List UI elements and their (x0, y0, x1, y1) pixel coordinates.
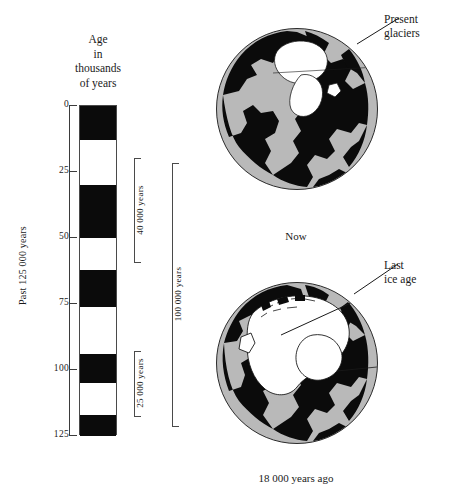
callout-last-ice-age-line-1: Last (384, 258, 416, 272)
column-header-line-3: thousands (52, 61, 144, 76)
callout-present-glaciers-line-1: Present (384, 12, 420, 26)
bracket-arm-bottom (134, 262, 141, 263)
axis-spine (69, 105, 70, 435)
axis-title: Past 125 000 years (17, 206, 28, 326)
column-header-line-2: in (52, 47, 144, 62)
globe-present-day-map (217, 29, 377, 189)
axis-tick-label-75: 75 (39, 297, 69, 307)
bracket-label-outer-100k: 100 000 years (173, 244, 183, 344)
axis-tick-mark (69, 435, 77, 436)
axis-tick-label-0: 0 (39, 99, 69, 109)
axis-tick-mark (69, 171, 77, 172)
bracket-label-inner-25k: 25 000 years (135, 333, 145, 433)
band-glacial (80, 415, 116, 436)
column-header-line-1: Age (52, 32, 144, 47)
glacial-cycle-column (79, 105, 117, 435)
column-header: Age in thousands of years (52, 32, 144, 90)
band-glacial (80, 270, 116, 307)
band-interglacial (80, 140, 116, 185)
bracket-arm-bottom (172, 426, 179, 427)
callout-last-ice-age-line-2: ice age (384, 272, 416, 286)
axis-tick-label-100: 100 (39, 363, 69, 373)
axis-tick-label-25: 25 (39, 165, 69, 175)
bracket-label-inner-40k: 40 000 years (135, 160, 145, 260)
globe-last-ice-age-caption: 18 000 years ago (216, 472, 376, 484)
globe-present-day-caption: Now (216, 230, 376, 242)
axis-tick-mark (69, 105, 77, 106)
callout-present-glaciers-line-2: glaciers (384, 26, 420, 40)
bracket-arm-top (172, 163, 179, 164)
axis-tick-label-50: 50 (39, 231, 69, 241)
band-glacial (80, 185, 116, 238)
band-glacial (80, 106, 116, 140)
globe-last-ice-age-map (217, 283, 377, 443)
globe-last-ice-age (216, 282, 378, 444)
band-glacial (80, 354, 116, 383)
callout-last-ice-age: Last ice age (384, 258, 416, 286)
band-interglacial (80, 238, 116, 270)
band-interglacial (80, 383, 116, 415)
axis-tick-mark (69, 303, 77, 304)
axis-tick-mark (69, 369, 77, 370)
figure-root: Age in thousands of years Past 125 000 y… (0, 0, 451, 504)
band-interglacial (80, 307, 116, 355)
globe-present-day (216, 28, 378, 190)
axis-tick-mark (69, 237, 77, 238)
bracket-arm-top (134, 158, 141, 159)
column-header-line-4: of years (52, 76, 144, 91)
axis-tick-label-125: 125 (39, 429, 69, 439)
callout-present-glaciers: Present glaciers (384, 12, 420, 40)
